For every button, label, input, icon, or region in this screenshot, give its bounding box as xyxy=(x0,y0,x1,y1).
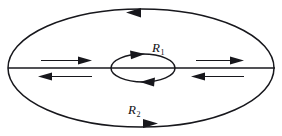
inner-bottom-arrow-icon xyxy=(140,78,155,87)
diagram-canvas: R1 R2 xyxy=(0,0,282,136)
outer-radius-label: R2 xyxy=(127,102,140,119)
inner-radius-label-subscript: 1 xyxy=(160,48,164,57)
outer-radius-label-base: R xyxy=(127,102,136,117)
figure-container: R1 R2 xyxy=(0,0,282,136)
left-lower-flow-arrowhead xyxy=(38,73,52,81)
inner-radius-label-base: R xyxy=(151,40,160,55)
inner-radius-label: R1 xyxy=(151,40,164,57)
right-upper-flow-arrow xyxy=(196,57,244,65)
left-upper-flow-arrowhead xyxy=(78,57,92,65)
left-lower-flow-arrow xyxy=(38,73,92,81)
left-upper-flow-arrow xyxy=(41,57,92,65)
right-upper-flow-arrowhead xyxy=(230,57,244,65)
outer-radius-label-subscript: 2 xyxy=(136,110,140,119)
inner-top-arrow-icon xyxy=(130,50,145,59)
right-lower-flow-arrowhead xyxy=(191,73,205,81)
right-lower-flow-arrow xyxy=(191,73,244,81)
